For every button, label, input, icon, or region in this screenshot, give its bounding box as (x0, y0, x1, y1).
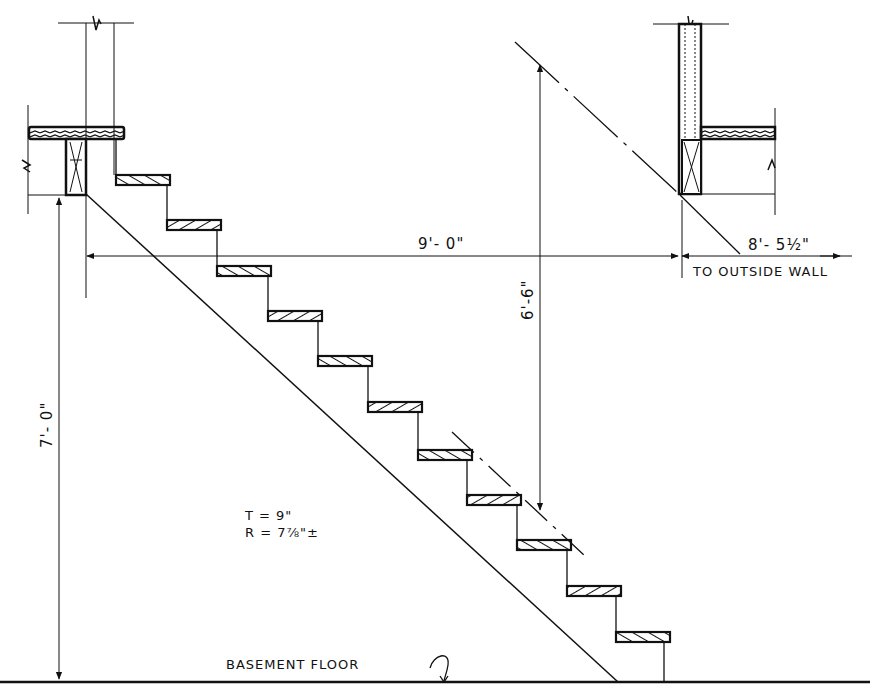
dimension-lines (59, 65, 852, 679)
tread-9 (517, 540, 571, 550)
dimension-outside-wall-label: 8'- 5½" (748, 236, 810, 254)
dimension-headroom-label: 6'-6" (519, 279, 537, 320)
break-symbol-icon (22, 160, 30, 172)
tread-11 (616, 632, 670, 642)
tread-6 (368, 402, 422, 412)
stair-stringer (86, 194, 618, 682)
break-symbol-icon (768, 160, 775, 170)
tread-8 (467, 495, 521, 505)
basement-floor-label: BASEMENT FLOOR (226, 657, 359, 672)
right-wall-framing (653, 16, 775, 215)
tread-7 (418, 450, 472, 460)
dimension-floor-to-floor-label: 7'- 0" (38, 402, 56, 448)
riser-note: R = 7⅞"± (245, 525, 319, 540)
dimension-run-label: 9'- 0" (418, 235, 464, 253)
tread-4 (268, 311, 322, 321)
leader-arrow-icon (430, 656, 448, 681)
tread-2 (167, 220, 221, 230)
tread-1 (116, 175, 170, 185)
tread-note: T = 9" (244, 508, 292, 523)
tread-10 (567, 586, 621, 596)
stair-section-drawing: 9'- 0" 8'- 5½" TO OUTSIDE WALL 6'-6" 7'-… (0, 0, 870, 692)
tread-5 (318, 356, 372, 366)
stair-treads (116, 139, 670, 682)
tread-3 (217, 266, 271, 276)
basement-floor (0, 656, 870, 682)
to-outside-wall-note: TO OUTSIDE WALL (692, 264, 828, 279)
